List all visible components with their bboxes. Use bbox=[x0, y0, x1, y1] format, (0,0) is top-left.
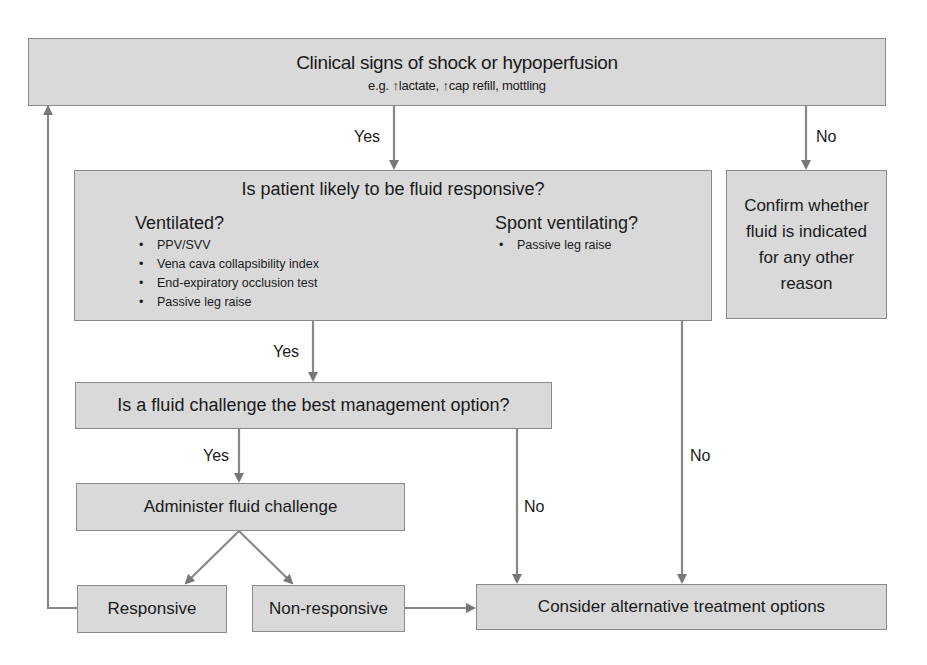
spont-list: Passive leg raise bbox=[495, 236, 638, 255]
node-clinical-signs-subtitle: e.g. ↑lactate, ↑cap refill, mottling bbox=[368, 78, 546, 93]
ventilated-group: Ventilated? PPV/SVV Vena cava collapsibi… bbox=[135, 213, 319, 312]
node-responsive-text: Responsive bbox=[108, 599, 197, 619]
ventilated-heading: Ventilated? bbox=[135, 213, 319, 234]
node-administer-fluid-text: Administer fluid challenge bbox=[144, 497, 338, 517]
node-clinical-signs: Clinical signs of shock or hypoperfusion… bbox=[28, 38, 886, 106]
spont-heading: Spont ventilating? bbox=[495, 213, 638, 234]
ventilated-list: PPV/SVV Vena cava collapsibility index E… bbox=[135, 236, 319, 312]
node-confirm-indication-text: Confirm whether fluid is indicated for a… bbox=[737, 193, 876, 297]
node-fluid-responsive-question: Is patient likely to be fluid responsive… bbox=[75, 179, 711, 200]
edge-label-best-yes: Yes bbox=[203, 447, 229, 465]
edge-label-start-no: No bbox=[816, 128, 836, 146]
node-best-option-question: Is a fluid challenge the best management… bbox=[117, 395, 509, 416]
node-fluid-responsive: Is patient likely to be fluid responsive… bbox=[74, 170, 712, 321]
node-alternative-treatment: Consider alternative treatment options bbox=[476, 584, 887, 630]
edge-label-start-yes: Yes bbox=[354, 128, 380, 146]
node-non-responsive: Non-responsive bbox=[252, 585, 405, 632]
spont-group: Spont ventilating? Passive leg raise bbox=[495, 213, 638, 255]
ventilated-item: End-expiratory occlusion test bbox=[135, 274, 319, 293]
edge-label-best-no: No bbox=[524, 498, 544, 516]
edge-label-responsive-no: No bbox=[690, 447, 710, 465]
node-responsive: Responsive bbox=[77, 585, 227, 633]
node-administer-fluid: Administer fluid challenge bbox=[76, 483, 405, 531]
ventilated-item: Vena cava collapsibility index bbox=[135, 255, 319, 274]
node-clinical-signs-title: Clinical signs of shock or hypoperfusion bbox=[296, 52, 618, 74]
edge-label-responsive-yes: Yes bbox=[273, 343, 299, 361]
spont-item: Passive leg raise bbox=[495, 236, 638, 255]
node-confirm-indication: Confirm whether fluid is indicated for a… bbox=[726, 170, 887, 319]
node-non-responsive-text: Non-responsive bbox=[269, 599, 388, 619]
node-alternative-treatment-text: Consider alternative treatment options bbox=[538, 597, 825, 617]
ventilated-item: PPV/SVV bbox=[135, 236, 319, 255]
ventilated-item: Passive leg raise bbox=[135, 293, 319, 312]
node-best-option: Is a fluid challenge the best management… bbox=[75, 382, 552, 429]
